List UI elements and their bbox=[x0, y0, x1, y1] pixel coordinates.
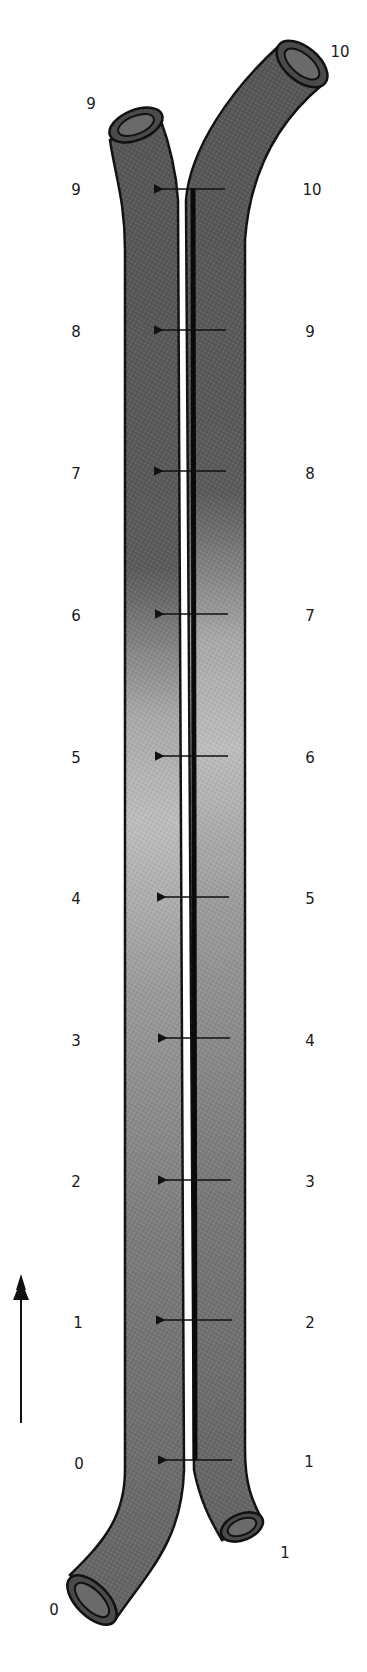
left-tube-bottom-end-label: 0 bbox=[49, 1601, 59, 1619]
left-scale-label: 6 bbox=[71, 607, 81, 625]
right-scale-label: 7 bbox=[305, 607, 315, 625]
right-tube-bottom-end-label: 1 bbox=[280, 1544, 290, 1562]
right-scale-label: 5 bbox=[305, 890, 315, 908]
right-scale-label: 9 bbox=[305, 323, 315, 341]
right-scale-label: 4 bbox=[305, 1032, 315, 1050]
left-scale-label: 3 bbox=[71, 1032, 81, 1050]
tube-divider bbox=[193, 188, 195, 1460]
right-scale-label: 1 bbox=[304, 1453, 314, 1471]
left-tube-top-end-label: 9 bbox=[86, 95, 96, 113]
right-tube-top-end-label: 10 bbox=[330, 43, 349, 61]
left-scale-label: 9 bbox=[71, 181, 81, 199]
left-scale-label: 2 bbox=[71, 1173, 81, 1191]
left-scale-label: 8 bbox=[71, 323, 81, 341]
left-scale-label: 1 bbox=[73, 1314, 83, 1332]
right-scale-label: 10 bbox=[302, 181, 321, 199]
left-scale-label: 4 bbox=[71, 890, 81, 908]
right-scale-label: 6 bbox=[305, 749, 315, 767]
left-scale-label: 0 bbox=[74, 1455, 84, 1473]
left-scale-label: 5 bbox=[71, 749, 81, 767]
countercurrent-diagram bbox=[0, 0, 367, 1672]
left-scale-label: 7 bbox=[71, 465, 81, 483]
right-scale-label: 3 bbox=[305, 1173, 315, 1191]
right-scale-label: 8 bbox=[305, 465, 315, 483]
right-scale-label: 2 bbox=[305, 1314, 315, 1332]
